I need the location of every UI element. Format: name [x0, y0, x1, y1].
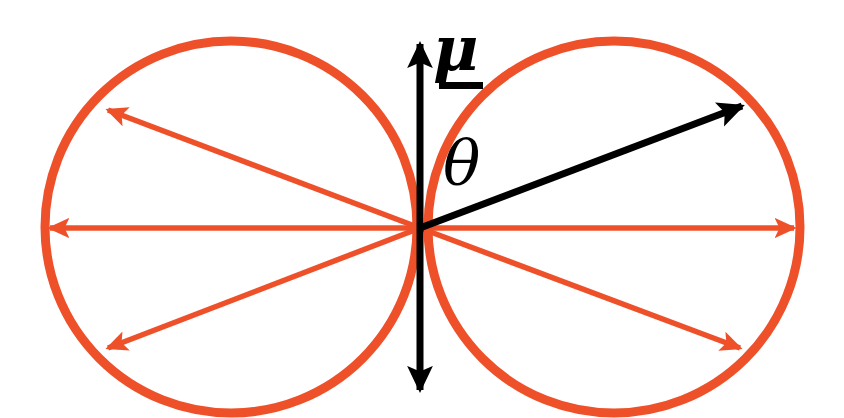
dipole-radiation-figure: μ θ [0, 0, 844, 418]
ray-left-down-arrow [108, 228, 420, 348]
mu-vector-underbar [439, 82, 483, 89]
theta-angle-label: θ [443, 132, 480, 194]
ray-right-down-arrow [420, 228, 740, 348]
ray-left-up-arrow [108, 110, 420, 228]
mu-vector-label: μ [433, 18, 478, 80]
figure-canvas [0, 0, 844, 418]
